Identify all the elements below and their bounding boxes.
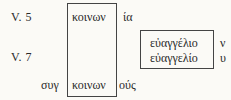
suffix-bottom: ούς — [119, 79, 136, 91]
gospel-suffix-2: υ — [220, 52, 226, 64]
verse-label-7: V. 7 — [11, 51, 32, 63]
verse-label-5: V. 5 — [11, 11, 32, 23]
gospel-word-2: εὐαγγελίο — [150, 52, 198, 64]
gospel-word-1: εὐαγγέλιο — [150, 37, 198, 49]
suffix-top: ία — [123, 11, 133, 23]
root-word-bottom: κοινων — [72, 79, 106, 91]
root-word-top: κοινων — [72, 11, 106, 23]
prefix-bottom: συγ — [41, 79, 59, 91]
gospel-suffix-1: ν — [220, 37, 225, 49]
